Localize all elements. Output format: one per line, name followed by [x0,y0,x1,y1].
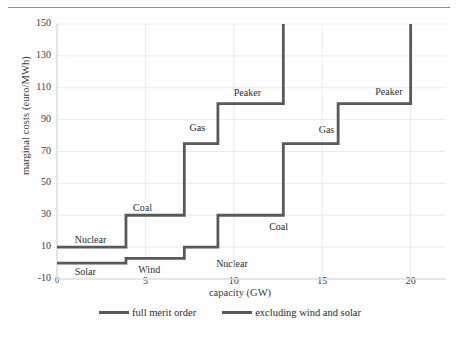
legend-label: excluding wind and solar [255,307,361,318]
legend-item-full-merit-order[interactable]: full merit order [99,307,196,318]
plot-area [0,0,460,347]
chart-figure: marginal costs (euro/MWh) capacity (GW) … [0,0,460,347]
legend-swatch-icon [99,311,129,314]
series-line-excluding-wind-and-solar [57,24,283,247]
chart-legend: full merit order excluding wind and sola… [0,307,460,318]
legend-item-excluding-wind-and-solar[interactable]: excluding wind and solar [222,307,361,318]
legend-label: full merit order [132,307,196,318]
legend-swatch-icon [222,311,252,314]
